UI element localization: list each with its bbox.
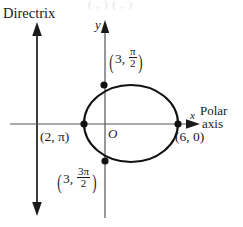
point-marker-left [80,120,87,127]
point-label-right: (6, 0) [175,130,204,144]
point-top-r: 3 [115,51,122,66]
point-marker-right [174,120,181,127]
y-axis-label: y [95,18,101,31]
point-label-bottom: (3, 3π2) [56,166,98,190]
point-left-text: (2, π) [40,129,69,144]
polar-axis-label-line2: axis [202,117,227,130]
paren-open: ( [57,176,61,189]
point-bottom-theta: 3π2 [77,166,90,190]
polar-conic-figure: ( , ) ( , ) Directrix y x Polar axis [0,0,243,227]
paren-close: ) [92,176,96,189]
point-label-left: (2, π) [40,130,69,144]
directrix-label: Directrix [3,6,55,21]
paren-open: ( [109,56,113,69]
x-axis-label: x [190,110,195,121]
directrix-line [32,22,42,216]
origin-label: O [108,127,117,140]
point-bottom-r: 3 [63,171,70,186]
point-right-text: (6, 0) [175,129,204,144]
paren-close: ) [138,56,142,69]
point-top-theta: π2 [129,46,137,70]
polar-axis-label: Polar axis [200,104,227,131]
point-marker-bottom [101,157,108,164]
point-label-top: (3, π2) [108,46,144,70]
point-marker-top [100,81,107,88]
